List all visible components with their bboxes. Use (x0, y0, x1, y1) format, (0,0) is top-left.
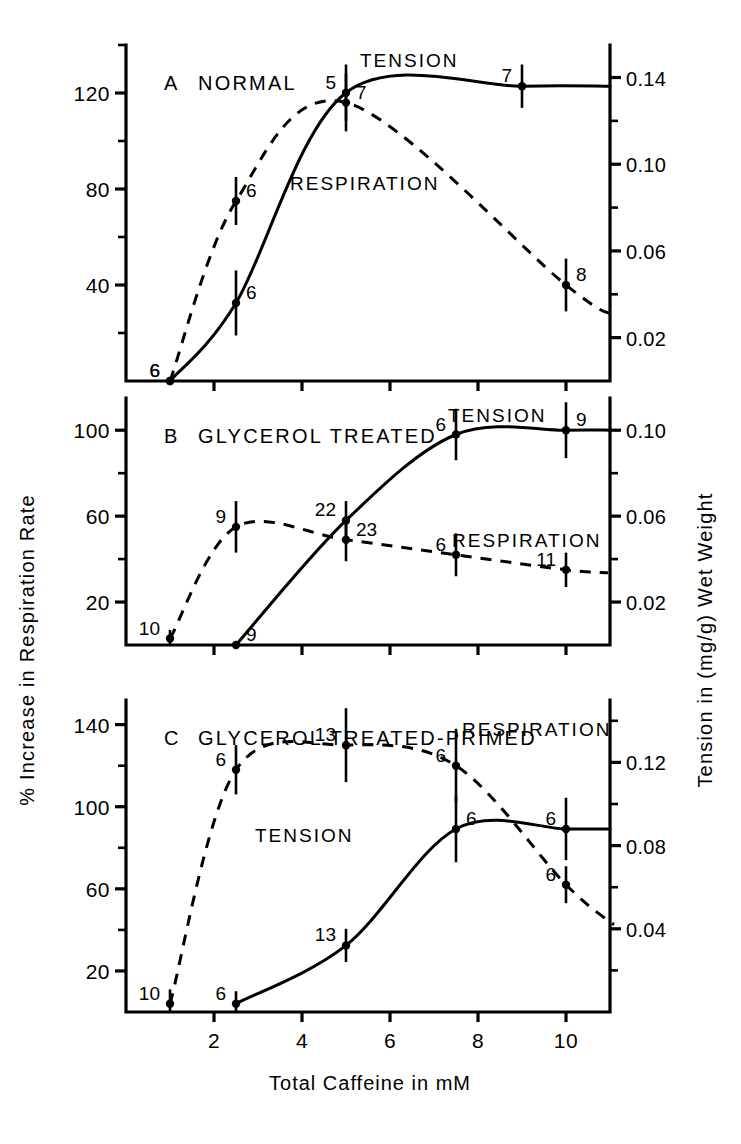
panel-B-datapoint (232, 641, 240, 649)
x-tick-label-0: 2 (208, 1029, 220, 1052)
panel-A-ylabel-right-0: 0.02 (626, 328, 666, 350)
panel-C-ylabel-right-1: 0.08 (626, 836, 666, 858)
panel-C-datapoint (452, 825, 460, 833)
x-tick-label-2: 6 (384, 1029, 396, 1052)
panel-B-n-label: 9 (215, 506, 226, 527)
panel-C-ylabel-left-2: 100 (73, 796, 110, 819)
x-tick-label-3: 8 (472, 1029, 484, 1052)
panel-A-datapoint (232, 299, 240, 307)
panel-B-n-label: 6 (435, 414, 446, 435)
panel-C-datapoint (452, 761, 460, 769)
panel-C-n-label: 6 (545, 808, 556, 829)
panel-C-curve-tension (236, 820, 610, 1003)
panel-C-ylabel-right-0: 0.04 (626, 919, 666, 941)
panel-A-label-respiration: RESPIRATION (290, 173, 439, 194)
panel-B-title-text: GLYCEROL TREATED (198, 425, 437, 447)
panel-C-n-label: 13 (315, 924, 336, 945)
panel-B-datapoint (562, 426, 570, 434)
panel-A-ylabel-right-2: 0.10 (626, 154, 666, 176)
panel-C-n-label: 6 (466, 808, 477, 829)
panel-B-datapoint (342, 536, 350, 544)
panel-A-title-letter: A (164, 72, 180, 94)
panel-B-datapoint (166, 634, 174, 642)
panel-B-ylabel-right-0: 0.02 (626, 592, 666, 614)
panel-A-title-text: NORMAL (198, 72, 297, 94)
panel-B-ylabel-left-2: 100 (73, 419, 110, 442)
panel-C-ylabel-left-1: 60 (86, 878, 110, 901)
panel-A-datapoint (166, 377, 174, 385)
panel-B-title-letter: B (164, 425, 180, 447)
panel-A-ylabel-right-1: 0.06 (626, 241, 666, 263)
panel-C-ylabel-right-2: 0.12 (626, 752, 666, 774)
panel-C-n-label: 6 (545, 864, 556, 885)
panel-B-n-label: 6 (435, 534, 446, 555)
panel-A-axes (126, 45, 610, 381)
panel-B-datapoint (452, 430, 460, 438)
panel-A-curve-respiration (170, 101, 614, 381)
panel-C-datapoint (166, 1000, 174, 1008)
figure-root: 40801200.020.060.100.14ANORMAL6657667820… (0, 0, 741, 1144)
panel-B-datapoint (562, 566, 570, 574)
panel-B-n-label: 23 (356, 519, 377, 540)
panel-A-ylabel-left-0: 40 (86, 274, 110, 297)
panel-B-ylabel-right-2: 0.10 (626, 420, 666, 442)
panel-C-n-label: 13 (315, 724, 336, 745)
y-axis-title-right: Tension in (mg/g) Wet Weight (694, 492, 716, 787)
panel-A-n-label: 7 (501, 65, 512, 86)
x-tick-label-1: 4 (296, 1029, 308, 1052)
panel-B-ylabel-left-0: 20 (86, 591, 110, 614)
panel-B-ylabel-left-1: 60 (86, 505, 110, 528)
panel-A-n-label: 6 (149, 360, 160, 381)
panel-B-n-label: 9 (246, 624, 257, 645)
panel-A-n-label: 5 (325, 72, 336, 93)
panel-C-n-label: 10 (139, 983, 160, 1004)
panel-A-ylabel-left-1: 80 (86, 178, 110, 201)
panel-C-datapoint (342, 741, 350, 749)
panel-B-label-respiration: RESPIRATION (452, 530, 601, 551)
panel-C-ylabel-left-0: 20 (86, 960, 110, 983)
panel-C-n-label: 6 (435, 745, 446, 766)
panel-B-n-label: 22 (315, 499, 336, 520)
panel-B-n-label: 9 (576, 409, 587, 430)
panel-B-label-tension: TENSION (448, 405, 546, 426)
panel-A-datapoint (562, 281, 570, 289)
panel-A-datapoint (518, 82, 526, 90)
panel-A-n-label: 8 (576, 264, 587, 285)
panel-C-label-respiration: RESPIRATION (462, 719, 611, 740)
panel-C-datapoint (562, 825, 570, 833)
panel-B-n-label: 10 (139, 618, 160, 639)
panel-A-label-tension: TENSION (360, 50, 458, 71)
panel-C-ylabel-left-3: 140 (73, 714, 110, 737)
panel-C-label-tension: TENSION (255, 825, 353, 846)
panel-A-datapoint (232, 197, 240, 205)
panel-A-ylabel-left-2: 120 (73, 82, 110, 105)
panel-B-ylabel-right-1: 0.06 (626, 506, 666, 528)
panel-A-n-label: 7 (356, 82, 367, 103)
panel-C-datapoint (562, 881, 570, 889)
panel-A-ylabel-right-3: 0.14 (626, 68, 666, 90)
panel-B-datapoint (232, 523, 240, 531)
caffeine-tension-respiration-figure: 40801200.020.060.100.14ANORMAL6657667820… (0, 0, 741, 1144)
panel-C-datapoint (232, 999, 240, 1007)
panel-C-title-letter: C (164, 727, 181, 749)
panel-B-n-label: 11 (536, 549, 556, 570)
x-tick-label-4: 10 (554, 1029, 578, 1052)
panel-C-datapoint (232, 766, 240, 774)
x-axis-title: Total Caffeine in mM (269, 1072, 471, 1094)
panel-A-n-label: 6 (246, 180, 257, 201)
panel-C-n-label: 6 (215, 749, 226, 770)
panel-A-datapoint (342, 98, 350, 106)
panel-C-datapoint (342, 941, 350, 949)
y-axis-title-left: % Increase in Respiration Rate (16, 494, 38, 806)
panel-B-datapoint (452, 551, 460, 559)
panel-A-n-label: 6 (246, 282, 257, 303)
panel-C-n-label: 6 (215, 983, 226, 1004)
